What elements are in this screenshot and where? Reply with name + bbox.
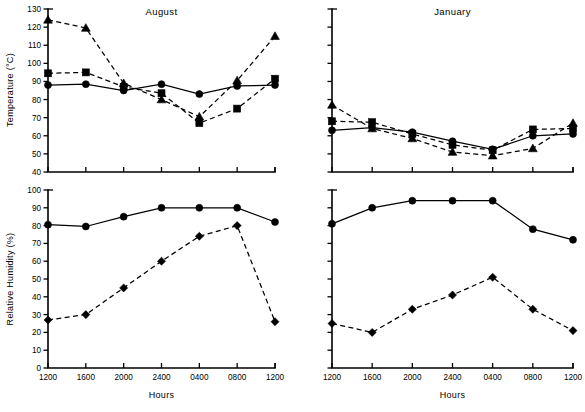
marker-circle [120,213,127,220]
marker-square [272,75,279,82]
x-axis-title: Hours [440,390,466,400]
marker-diamond [233,222,241,230]
y-tick-label: 60 [32,257,42,266]
marker-circle [409,197,416,204]
y-axis-title-relative-humidity: Relative Humidity (%) [5,233,15,326]
marker-diamond [195,232,203,240]
y-tick-label: 70 [32,114,42,123]
marker-triangle [44,15,53,23]
marker-diamond [44,316,52,324]
marker-square [196,120,203,127]
x-tick-label: 2000 [403,373,422,382]
marker-circle [329,220,336,227]
marker-square [329,118,336,125]
marker-circle [529,226,536,233]
series-line-circle-solid [332,201,573,240]
y-tick-label: 40 [32,168,42,177]
series-markers-diamond-dashed [328,273,577,336]
y-tick-label: 100 [27,186,41,195]
x-tick-label: 1200 [564,373,583,382]
marker-diamond [368,328,376,336]
marker-circle [234,204,241,211]
panel-january-temperature: January [328,6,578,172]
panel-january-relative-humidity: 1200160020002400040008001200Hours [323,190,583,400]
marker-circle [196,91,203,98]
marker-diamond [448,291,456,299]
y-tick-label: 90 [32,77,42,86]
x-tick-label: 2400 [152,373,171,382]
marker-circle [82,223,89,230]
marker-circle [449,197,456,204]
figure-container: 405060708090100110120130AugustJanuary010… [0,0,585,412]
x-tick-label: 1200 [266,373,285,382]
panel-august-temperature: 405060708090100110120130August [27,5,279,177]
y-tick-label: 50 [32,150,42,159]
marker-circle [570,236,577,243]
x-axis-title: Hours [149,390,175,400]
series-markers-circle-solid [329,197,577,243]
x-tick-label: 1600 [363,373,382,382]
y-tick-label: 80 [32,96,42,105]
marker-diamond [120,284,128,292]
marker-square [45,70,52,77]
series-markers-diamond-dashed [44,222,279,326]
y-tick-label: 40 [32,293,42,302]
y-tick-label: 10 [32,346,42,355]
y-tick-label: 130 [27,5,41,14]
x-tick-label: 0800 [228,373,247,382]
y-tick-label: 80 [32,222,42,231]
y-tick-label: 50 [32,275,42,284]
marker-triangle [271,32,280,40]
marker-square [82,69,89,76]
axis-spine [332,190,573,368]
marker-circle [369,204,376,211]
x-tick-label: 1200 [323,373,342,382]
marker-square [234,105,241,112]
panel-title-january-temperature: January [434,6,471,17]
y-tick-label: 20 [32,328,42,337]
x-tick-label: 2000 [115,373,134,382]
y-tick-label: 90 [32,204,42,213]
marker-square [529,126,536,133]
marker-triangle [195,112,204,120]
marker-diamond [408,305,416,313]
panel-title-august-temperature: August [146,6,178,17]
x-tick-label: 0400 [484,373,503,382]
y-tick-label: 60 [32,132,42,141]
y-axis-title-temperature: Temperature (°C) [5,53,15,127]
x-tick-label: 1200 [39,373,58,382]
marker-circle [196,204,203,211]
marker-triangle [119,79,128,87]
y-tick-label: 30 [32,311,42,320]
series-markers-triangle-dashed [44,15,280,120]
marker-triangle [569,119,578,127]
marker-circle [45,82,52,89]
y-tick-label: 70 [32,239,42,248]
marker-circle [272,82,279,89]
marker-triangle [528,144,537,152]
y-tick-label: 100 [27,59,41,68]
multi-panel-chart: 405060708090100110120130AugustJanuary010… [0,0,585,412]
marker-diamond [328,319,336,327]
series-markers-triangle-dashed [328,101,578,159]
marker-diamond [82,311,90,319]
marker-circle [272,219,279,226]
marker-diamond [271,318,279,326]
marker-circle [45,221,52,228]
y-tick-label: 0 [36,364,41,373]
x-tick-label: 0800 [524,373,543,382]
marker-circle [489,197,496,204]
series-line-diamond-dashed [332,277,573,332]
marker-circle [529,132,536,139]
marker-diamond [569,327,577,335]
marker-triangle [328,101,337,109]
panel-august-relative-humidity: 0102030405060708090100120016002000240004… [27,186,284,400]
series-line-diamond-dashed [48,226,275,322]
y-tick-label: 120 [27,23,41,32]
marker-circle [82,81,89,88]
x-tick-label: 0400 [190,373,209,382]
marker-circle [158,81,165,88]
y-tick-label: 110 [28,41,41,50]
marker-circle [329,127,336,134]
x-tick-label: 1600 [77,373,96,382]
